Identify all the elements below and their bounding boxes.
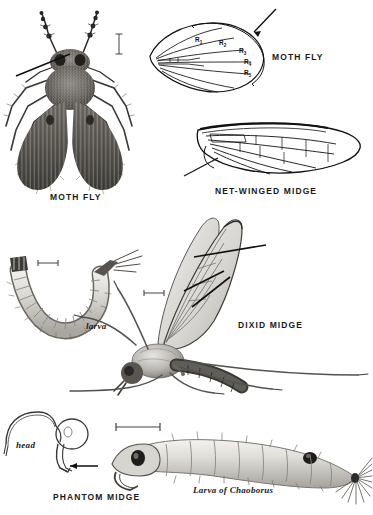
caption-net-winged-midge: NET-WINGED MIDGE (215, 186, 317, 196)
dixid-midge-adult (96, 215, 373, 395)
pointer-moth-fly-wing (254, 9, 276, 37)
caption-head: head (16, 440, 35, 450)
vein-label-r1: R1 (195, 36, 202, 43)
vein-label-r3: R3 (239, 47, 246, 54)
pointer-phantom-head (70, 463, 98, 469)
illustration-plate: MOTH FLY (0, 0, 373, 515)
vein-label-r2: R2 (219, 39, 226, 46)
scale-bar-larva (38, 260, 58, 266)
caption-moth-fly-photo: MOTH FLY (50, 192, 101, 202)
scale-bar-dixid-midge (144, 290, 164, 296)
net-winged-midge-wing (196, 118, 364, 180)
vein-label-r5: R5 (244, 69, 251, 76)
vein-label-r4: R4 (244, 58, 251, 65)
caption-chaoborus-larva: Larva of Chaoborus (193, 485, 273, 495)
caption-moth-fly-wing: MOTH FLY (272, 52, 323, 62)
moth-fly-wing-diagram (148, 18, 280, 98)
scale-bar-chaoborus (116, 423, 160, 431)
scale-bar-moth-fly (114, 32, 124, 56)
caption-dixid-midge: DIXID MIDGE (238, 320, 303, 330)
